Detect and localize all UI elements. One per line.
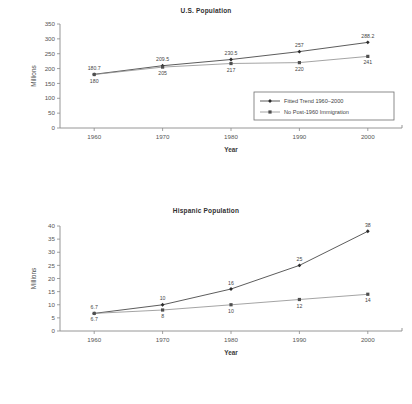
x-tick-label: 1980 bbox=[224, 133, 238, 140]
data-point-label: 16 bbox=[228, 280, 234, 286]
y-tick-label: 150 bbox=[45, 80, 56, 87]
data-point-marker bbox=[298, 50, 302, 54]
y-axis-label: Millions bbox=[30, 65, 37, 86]
data-point-label: 10 bbox=[160, 295, 166, 301]
chart-canvas-us-population: 0501001502002503003501960197019801990200… bbox=[0, 14, 412, 164]
y-tick-label: 100 bbox=[45, 94, 56, 101]
data-point-marker bbox=[366, 40, 370, 44]
data-point-marker bbox=[229, 287, 233, 291]
legend-box bbox=[254, 92, 394, 120]
plot-area-hispanic-population: 051015202530354019601970198019902000Mill… bbox=[0, 214, 412, 369]
legend-label-1: Fitted Trend 1960–2000 bbox=[284, 98, 343, 104]
y-tick-label: 250 bbox=[45, 50, 56, 57]
y-tick-label: 0 bbox=[52, 327, 56, 334]
y-tick-label: 300 bbox=[45, 35, 56, 42]
x-tick-label: 1970 bbox=[156, 133, 170, 140]
legend-marker-2 bbox=[268, 110, 271, 113]
data-point-label: 25 bbox=[297, 256, 303, 262]
series-line-1 bbox=[94, 231, 368, 313]
data-point-label: 180.7 bbox=[88, 65, 101, 71]
x-axis-label: Year bbox=[224, 349, 238, 356]
x-tick-label: 1990 bbox=[293, 133, 307, 140]
data-point-label: 241 bbox=[363, 59, 372, 65]
data-point-label: 257 bbox=[295, 42, 304, 48]
data-point-marker bbox=[229, 303, 232, 306]
data-point-label: 230.5 bbox=[225, 50, 238, 56]
data-point-label: 180 bbox=[90, 78, 99, 84]
data-point-marker bbox=[161, 308, 164, 311]
data-point-label: 6.7 bbox=[91, 316, 98, 322]
y-tick-label: 15 bbox=[48, 288, 55, 295]
data-point-label: 12 bbox=[297, 303, 303, 309]
x-tick-label: 1980 bbox=[224, 336, 238, 343]
x-tick-label: 1990 bbox=[293, 336, 307, 343]
y-tick-label: 10 bbox=[48, 301, 55, 308]
data-point-label: 38 bbox=[365, 222, 371, 228]
y-axis-label: Millions bbox=[30, 268, 37, 289]
y-tick-label: 200 bbox=[45, 65, 56, 72]
y-tick-label: 30 bbox=[48, 248, 55, 255]
data-point-marker bbox=[298, 263, 302, 267]
data-point-label: 6.7 bbox=[91, 304, 98, 310]
x-tick-label: 1960 bbox=[87, 133, 101, 140]
data-point-marker bbox=[161, 303, 165, 307]
plot-area-us-population: 0501001502002503003501960197019801990200… bbox=[0, 14, 412, 164]
x-tick-label: 2000 bbox=[361, 133, 375, 140]
chart-title-hispanic-population: Hispanic Population bbox=[0, 200, 412, 214]
chart-hispanic-population: Hispanic Population 05101520253035401960… bbox=[0, 200, 412, 404]
data-point-marker bbox=[298, 61, 301, 64]
y-tick-label: 25 bbox=[48, 262, 55, 269]
data-point-label: 288.2 bbox=[361, 33, 374, 39]
data-point-marker bbox=[366, 293, 369, 296]
x-tick-label: 1960 bbox=[87, 336, 101, 343]
data-point-label: 10 bbox=[228, 308, 234, 314]
data-point-marker bbox=[229, 58, 233, 62]
x-tick-label: 2000 bbox=[361, 336, 375, 343]
y-tick-label: 40 bbox=[48, 222, 55, 229]
chart-canvas-hispanic-population: 051015202530354019601970198019902000Mill… bbox=[0, 214, 412, 369]
data-point-label: 8 bbox=[161, 313, 164, 319]
data-point-marker bbox=[366, 229, 370, 233]
data-point-label: 205 bbox=[158, 70, 167, 76]
data-point-marker bbox=[366, 55, 369, 58]
x-tick-label: 1970 bbox=[156, 336, 170, 343]
data-point-marker bbox=[298, 298, 301, 301]
y-tick-label: 50 bbox=[48, 109, 55, 116]
data-point-label: 217 bbox=[227, 67, 236, 73]
chart-title-us-population: U.S. Population bbox=[0, 0, 412, 14]
data-point-marker bbox=[229, 62, 232, 65]
data-point-marker bbox=[93, 312, 96, 315]
data-point-marker bbox=[93, 73, 96, 76]
y-tick-label: 0 bbox=[52, 124, 56, 131]
y-tick-label: 35 bbox=[48, 235, 55, 242]
data-point-marker bbox=[161, 65, 164, 68]
y-tick-label: 350 bbox=[45, 20, 56, 27]
y-tick-label: 20 bbox=[48, 275, 55, 282]
y-tick-label: 5 bbox=[52, 314, 56, 321]
data-point-label: 14 bbox=[365, 297, 371, 303]
x-axis-label: Year bbox=[224, 146, 238, 153]
legend-label-2: No Post-1960 Immigration bbox=[284, 109, 349, 115]
data-point-label: 220 bbox=[295, 66, 304, 72]
data-point-label: 209.5 bbox=[156, 56, 169, 62]
chart-us-population: U.S. Population 050100150200250300350196… bbox=[0, 0, 412, 200]
